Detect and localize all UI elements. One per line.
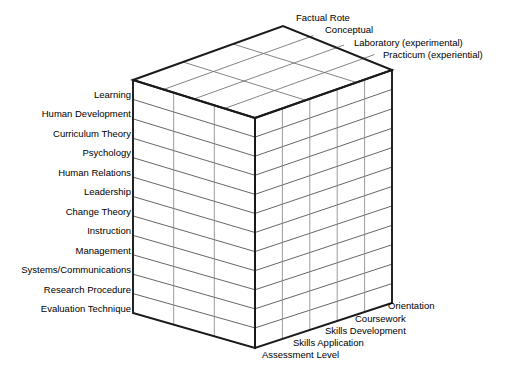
top-axis-label-text: Laboratory (experimental) [354, 37, 463, 48]
bottom-axis-label-3: Coursework [355, 313, 406, 324]
left-axis-label-text: Human Development [42, 108, 131, 119]
left-axis-label-text: Human Relations [58, 167, 131, 178]
cube-diagram: Learning Human Development Curriculum Th… [0, 0, 509, 371]
top-axis-label-2: Laboratory (experimental) [354, 37, 463, 48]
left-axis-label-9: Systems/Communications [0, 264, 131, 275]
left-axis-label-text: Change Theory [66, 206, 131, 217]
bottom-axis-label-4: Orientation [388, 300, 434, 311]
left-axis-label-text: Learning [94, 89, 131, 100]
top-axis-label-text: Conceptual [325, 24, 373, 35]
left-axis-label-6: Change Theory [0, 206, 131, 217]
left-axis-label-text: Evaluation Technique [41, 303, 131, 314]
top-axis-label-1: Conceptual [325, 24, 373, 35]
bottom-axis-label-text: Orientation [388, 300, 434, 311]
bottom-axis-label-text: Skills Application [293, 337, 364, 348]
left-axis-label-11: Evaluation Technique [0, 303, 131, 314]
left-axis-label-3: Psychology [0, 147, 131, 158]
bottom-axis-label-text: Coursework [355, 313, 406, 324]
left-axis-label-text: Research Procedure [44, 284, 131, 295]
left-axis-label-0: Learning [0, 89, 131, 100]
bottom-axis-label-text: Skills Development [325, 325, 406, 336]
top-axis-label-text: Factual Rote [296, 12, 350, 23]
left-axis-label-text: Curriculum Theory [53, 128, 131, 139]
bottom-axis-label-text: Assessment Level [262, 349, 339, 360]
left-axis-label-5: Leadership [0, 186, 131, 197]
top-axis-label-0: Factual Rote [296, 12, 350, 23]
bottom-axis-label-2: Skills Development [325, 325, 406, 336]
left-axis-label-8: Management [0, 245, 131, 256]
front-face [133, 80, 255, 348]
bottom-axis-label-0: Assessment Level [262, 349, 339, 360]
left-axis-label-7: Instruction [0, 225, 131, 236]
left-axis-label-text: Psychology [82, 147, 131, 158]
left-axis-label-10: Research Procedure [0, 284, 131, 295]
left-axis-label-text: Management [76, 245, 131, 256]
left-axis-label-text: Instruction [87, 225, 131, 236]
top-axis-label-3: Practicum (experiential) [383, 49, 483, 60]
left-axis-label-1: Human Development [0, 108, 131, 119]
top-axis-label-text: Practicum (experiential) [383, 49, 483, 60]
left-axis-label-text: Systems/Communications [21, 264, 131, 275]
left-axis-label-2: Curriculum Theory [0, 128, 131, 139]
bottom-axis-label-1: Skills Application [293, 337, 364, 348]
left-axis-label-4: Human Relations [0, 167, 131, 178]
left-axis-label-text: Leadership [84, 186, 131, 197]
